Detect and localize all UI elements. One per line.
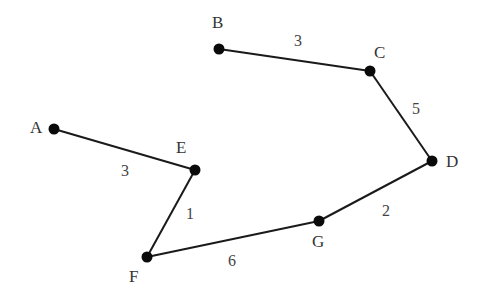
node-label-b: B [212,13,223,32]
edge-weight-a-e: 3 [121,162,129,179]
node-label-e: E [176,138,186,157]
edge-weight-f-g: 6 [228,252,236,269]
edge-weight-g-d: 2 [382,202,390,219]
graph-svg: 316253 ABCDEFG [0,0,485,291]
edge-weight-e-f: 1 [186,205,194,222]
edge-g-d [319,161,432,221]
node-e [190,165,201,176]
edges-group [54,49,432,257]
node-b [214,44,225,55]
node-a [49,124,60,135]
node-label-a: A [30,118,43,137]
node-d [427,156,438,167]
edge-d-c [370,71,432,161]
node-f [142,252,153,263]
node-label-g: G [312,232,324,251]
node-label-d: D [446,152,458,171]
edge-weight-c-b: 3 [294,32,302,49]
node-label-f: F [129,267,138,286]
node-labels-group: ABCDEFG [30,13,458,286]
nodes-group [49,44,438,263]
node-c [365,66,376,77]
node-g [314,216,325,227]
edge-weights-group: 316253 [121,32,420,269]
edge-weight-d-c: 5 [412,100,420,117]
node-label-c: C [374,43,385,62]
graph-diagram: 316253 ABCDEFG [0,0,485,291]
edge-c-b [219,49,370,71]
